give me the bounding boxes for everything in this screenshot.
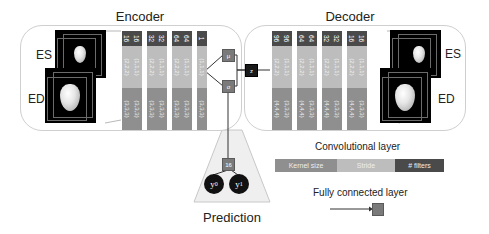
kernel-segment: (4,4,4): [297, 88, 307, 130]
filters-segment: 32: [147, 31, 157, 46]
stride-segment: (2,2,2): [322, 46, 332, 88]
stride-segment: (1,1,1): [197, 46, 207, 88]
kernel-segment: (4,4,4): [347, 88, 357, 130]
legend-kernel-size: Kernel size: [275, 159, 337, 172]
fc-legend-node: [372, 203, 384, 216]
decoder-ed-label: ED: [438, 92, 455, 106]
kernel-segment: (3,3,3): [332, 88, 342, 130]
output-y0: y0: [204, 174, 224, 194]
decoder-layer-1: 96 (2,2,2) (4,4,4): [272, 31, 282, 130]
stride-segment: (2,2,2): [272, 46, 282, 88]
stride-segment: (1,1,1): [282, 46, 292, 88]
filters-segment: 16: [357, 31, 367, 46]
encoder-layer-6: 64 (1,1,1) (3,3,3): [182, 31, 192, 130]
decoder-layer-7: 16 (2,2,2) (4,4,4): [347, 31, 357, 130]
sigma-node: σ: [222, 80, 235, 93]
kernel-segment: (3,3,3): [172, 88, 182, 130]
encoder-es-label: ES: [36, 48, 52, 62]
fc-legend-title: Fully connected layer: [313, 187, 408, 198]
decoder-layer-5: 32 (2,2,2) (4,4,4): [322, 31, 332, 130]
stride-segment: (2,2,2): [147, 46, 157, 88]
filters-segment: 64: [172, 31, 182, 46]
decoder-es-label: ES: [445, 47, 461, 61]
stride-segment: (1,1,1): [357, 46, 367, 88]
kernel-segment: (3,3,3): [307, 88, 317, 130]
filters-segment: 16: [347, 31, 357, 46]
stride-segment: (2,2,2): [297, 46, 307, 88]
decoder-layer-4: 64 (1,1,1) (3,3,3): [307, 31, 317, 130]
kernel-segment: (3,3,3): [147, 88, 157, 130]
decoder-ed-volume: [380, 68, 431, 123]
stride-segment: (2,2,2): [172, 46, 182, 88]
filters-segment: 96: [272, 31, 282, 46]
stride-segment: (2,2,2): [122, 46, 132, 88]
encoder-ed-volume: [45, 68, 96, 123]
z-node: z: [245, 64, 258, 77]
conv-legend-title: Convolutional layer: [315, 141, 400, 152]
stride-segment: (2,2,2): [347, 46, 357, 88]
kernel-segment: (3,3,3): [122, 88, 132, 130]
kernel-segment: (3,3,3): [157, 88, 167, 130]
stride-segment: (1,1,1): [132, 46, 142, 88]
kernel-segment: (3,3,3): [357, 88, 367, 130]
kernel-segment: (4,4,4): [322, 88, 332, 130]
encoder-layer-3: 32 (2,2,2) (3,3,3): [147, 31, 157, 130]
filters-segment: 64: [182, 31, 192, 46]
encoder-layer-5: 64 (2,2,2) (3,3,3): [172, 31, 182, 130]
kernel-segment: (3,3,3): [132, 88, 142, 130]
conv-legend-bar: Kernel size Stride # filters: [275, 159, 444, 172]
kernel-segment: (3,3,3): [282, 88, 292, 130]
legend-stride: Stride: [337, 159, 395, 172]
kernel-segment: (4,4,4): [272, 88, 282, 130]
filters-segment: 32: [332, 31, 342, 46]
kernel-segment: (3,3,3): [197, 88, 207, 130]
filters-segment: 1: [197, 31, 207, 46]
legend-filters: # filters: [395, 159, 444, 172]
filters-segment: 16: [132, 31, 142, 46]
stride-segment: (1,1,1): [332, 46, 342, 88]
encoder-ed-label: ED: [28, 92, 45, 106]
filters-segment: 32: [157, 31, 167, 46]
filters-segment: 32: [322, 31, 332, 46]
filters-segment: 96: [282, 31, 292, 46]
decoder-layer-2: 96 (1,1,1) (3,3,3): [282, 31, 292, 130]
prediction-title: Prediction: [192, 210, 272, 225]
hidden-fc-node: 16: [222, 158, 235, 171]
encoder-layer-1: 16 (2,2,2) (3,3,3): [122, 31, 132, 130]
encoder-layer-7: 1 (1,1,1) (3,3,3): [197, 31, 207, 130]
mu-node: μ: [222, 49, 235, 62]
kernel-segment: (3,3,3): [182, 88, 192, 130]
decoder-layer-8: 16 (1,1,1) (3,3,3): [357, 31, 367, 130]
encoder-layer-2: 16 (1,1,1) (3,3,3): [132, 31, 142, 130]
encoder-layer-4: 32 (1,1,1) (3,3,3): [157, 31, 167, 130]
stride-segment: (1,1,1): [307, 46, 317, 88]
stride-segment: (1,1,1): [157, 46, 167, 88]
stride-segment: (1,1,1): [182, 46, 192, 88]
output-y1: y1: [229, 174, 249, 194]
decoder-layer-3: 64 (2,2,2) (4,4,4): [297, 31, 307, 130]
decoder-layer-6: 32 (1,1,1) (3,3,3): [332, 31, 342, 130]
filters-segment: 64: [297, 31, 307, 46]
filters-segment: 64: [307, 31, 317, 46]
filters-segment: 16: [122, 31, 132, 46]
